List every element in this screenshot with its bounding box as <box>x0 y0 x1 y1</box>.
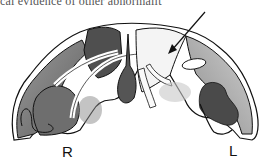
left-side-label: L <box>229 142 237 159</box>
brain-coronal-illustration <box>0 0 267 166</box>
shading-blob <box>159 82 191 102</box>
right-side-label: R <box>62 143 73 160</box>
shading-blob <box>78 96 102 124</box>
